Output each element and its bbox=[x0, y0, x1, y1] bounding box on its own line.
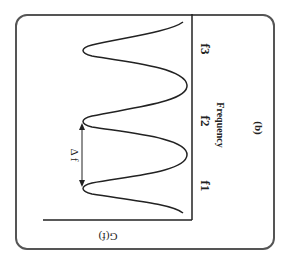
y-axis-label: G(f) bbox=[98, 230, 117, 243]
tick-label-f2: f2 bbox=[198, 116, 213, 127]
spectrum-curve bbox=[83, 22, 187, 213]
tick-label-f3: f3 bbox=[198, 44, 213, 55]
panel-label: (b) bbox=[252, 121, 265, 135]
x-axis-label: Frequency bbox=[215, 102, 226, 147]
delta-f-label: Δ f bbox=[69, 149, 81, 162]
tick-label-f1: f1 bbox=[198, 181, 213, 192]
spectrum-chart: Δ f f1 f2 f3 Frequency (b) G(f) bbox=[0, 0, 290, 270]
